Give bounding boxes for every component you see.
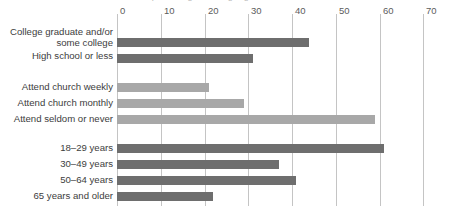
bar-attend-church-weekly (117, 83, 209, 92)
x-tick-label-40: 40 (295, 6, 306, 16)
x-tick-label-50: 50 (339, 6, 350, 16)
bar-high-school (117, 54, 253, 63)
category-label-age-30-49: 30–49 years (0, 159, 113, 170)
bar-age-50-64 (117, 176, 296, 185)
x-tick-label-0: 0 (120, 6, 125, 16)
gridline-50 (336, 14, 337, 206)
category-label-attend-seldom-or-never: Attend seldom or never (0, 114, 113, 125)
bar-age-65-and-older (117, 192, 213, 201)
x-tick-label-20: 20 (208, 6, 219, 16)
x-tick-label-10: 10 (164, 6, 175, 16)
category-label-age-65-and-older: 65 years and older (0, 191, 113, 202)
bar-age-18-29 (117, 144, 384, 153)
bar-college-graduate (117, 38, 309, 47)
x-tick-label-30: 30 (251, 6, 262, 16)
bar-age-30-49 (117, 160, 279, 169)
category-label-high-school: High school or less (0, 51, 113, 62)
category-label-age-50-64: 50–64 years (0, 175, 113, 186)
category-label-attend-church-monthly: Attend church monthly (0, 98, 113, 109)
category-label-age-18-29: 18–29 years (0, 143, 113, 154)
bar-attend-seldom-or-never (117, 115, 375, 124)
bar-attend-church-monthly (117, 99, 244, 108)
gridline-60 (380, 14, 381, 206)
x-tick-label-70: 70 (426, 6, 437, 16)
plot-area: 0 10 20 30 40 50 60 70 (117, 14, 424, 206)
horizontal-bar-chart: percentages among registered voters Coll… (0, 0, 456, 213)
category-label-college-graduate: College graduate and/or some college (0, 27, 113, 48)
x-tick-label-60: 60 (383, 6, 394, 16)
chart-title-fragment: percentages among registered voters (0, 0, 456, 3)
category-label-attend-church-weekly: Attend church weekly (0, 82, 113, 93)
gridline-70 (423, 14, 424, 206)
